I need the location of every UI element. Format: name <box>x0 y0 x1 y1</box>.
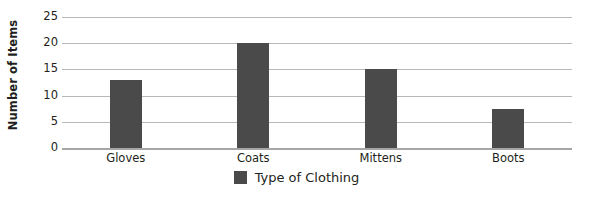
x-tick-label: Coats <box>237 150 270 166</box>
y-tick-label: 10 <box>18 90 58 102</box>
gridline <box>62 43 572 44</box>
y-tick-label: 5 <box>18 116 58 128</box>
chart-legend: Type of Clothing <box>0 170 593 185</box>
bar-chart: Number of Items 2520151050 GlovesCoatsMi… <box>0 0 593 205</box>
bar <box>365 69 397 148</box>
x-tick-label: Gloves <box>106 150 145 166</box>
y-tick-label: 0 <box>18 142 58 154</box>
plot-area <box>62 17 572 148</box>
gridline <box>62 69 572 70</box>
legend-label: Type of Clothing <box>255 170 360 185</box>
bar <box>110 80 142 148</box>
y-tick-label: 20 <box>18 37 58 49</box>
y-tick-label: 25 <box>18 11 58 23</box>
bar <box>492 109 524 148</box>
y-axis-tick-labels: 2520151050 <box>12 17 58 148</box>
y-tick-label: 15 <box>18 64 58 76</box>
x-tick-label: Mittens <box>360 150 403 166</box>
x-axis-category-labels: GlovesCoatsMittensBoots <box>62 150 572 168</box>
bar <box>237 43 269 148</box>
x-tick-label: Boots <box>492 150 524 166</box>
legend-swatch-icon <box>234 171 247 184</box>
gridline <box>62 17 572 18</box>
